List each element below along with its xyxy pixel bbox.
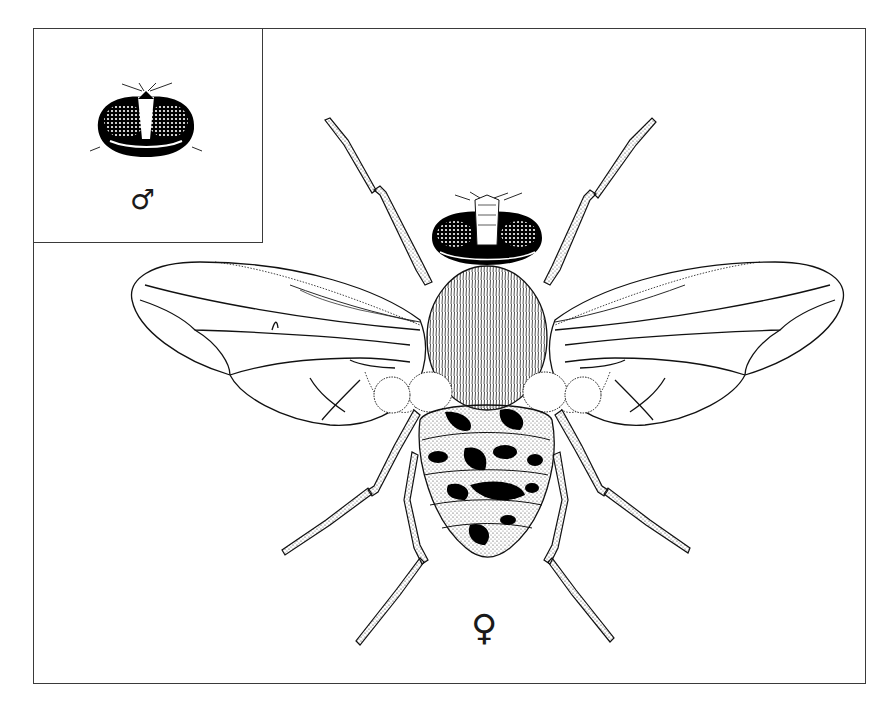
female-symbol: ♀ [471,610,497,646]
male-symbol: ♂ [130,186,155,214]
abdomen [419,405,554,557]
head [432,192,542,265]
